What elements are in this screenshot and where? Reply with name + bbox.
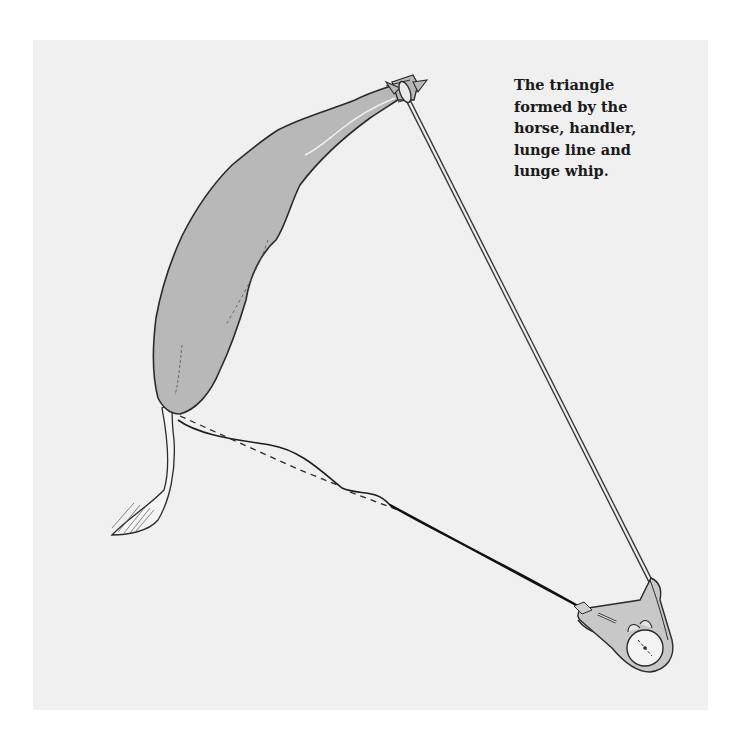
caption-line: The triangle xyxy=(514,74,684,96)
figure-caption: The triangle formed by the horse, handle… xyxy=(514,74,684,182)
caption-line: lunge whip. xyxy=(514,160,684,182)
caption-line: formed by the xyxy=(514,96,684,118)
horse xyxy=(153,83,405,414)
horse-tail xyxy=(112,405,174,535)
caption-line: horse, handler, xyxy=(514,117,684,139)
handler xyxy=(574,578,673,672)
caption-line: lunge line and xyxy=(514,139,684,161)
lunge-whip xyxy=(178,416,578,606)
